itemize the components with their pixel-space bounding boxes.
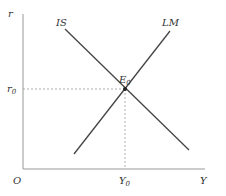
is-lm-diagram: r Y O IS LM E0 r0 Y0 — [0, 0, 226, 196]
lm-curve — [74, 31, 170, 154]
x-axis-label: Y — [200, 175, 208, 186]
y0-label: Y0 — [119, 175, 131, 188]
lm-curve-label: LM — [161, 17, 180, 28]
r0-label: r0 — [7, 83, 17, 96]
is-curve-label: IS — [55, 17, 67, 28]
is-curve — [65, 29, 189, 150]
origin-label: O — [13, 175, 21, 186]
equilibrium-label: E0 — [118, 74, 131, 87]
y-axis-label: r — [8, 8, 14, 19]
equilibrium-point — [123, 87, 127, 91]
